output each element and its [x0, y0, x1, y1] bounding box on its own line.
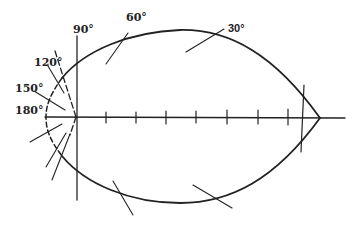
label-90: 90°: [73, 23, 94, 36]
horizontal-axis: [45, 117, 345, 118]
lower-curve: [62, 118, 320, 203]
label-60: 60°: [126, 11, 147, 24]
ray-240a: [46, 133, 66, 167]
ray-60: [106, 33, 128, 64]
ray-300: [113, 181, 133, 215]
label-180: 180°: [15, 104, 43, 117]
label-150: 150°: [15, 82, 43, 95]
polar-diagram: 90° 60° 30° 120° 150° 180°: [0, 0, 360, 226]
ray-240-dashed: [70, 117, 76, 135]
ray-210: [30, 124, 62, 142]
upper-curve: [62, 30, 320, 118]
label-30: 30°: [228, 22, 245, 34]
label-120: 120°: [34, 56, 62, 69]
ray-330: [193, 185, 232, 208]
